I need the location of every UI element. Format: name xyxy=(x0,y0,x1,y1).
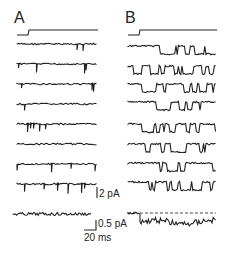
scale-label-2pa: 2 pA xyxy=(99,188,120,199)
current-trace xyxy=(128,123,216,132)
current-trace xyxy=(128,162,216,171)
current-trace xyxy=(17,63,97,73)
current-trace xyxy=(17,43,97,51)
voltage-step xyxy=(17,30,98,35)
current-trace xyxy=(17,163,97,172)
current-trace xyxy=(17,143,97,145)
current-trace xyxy=(128,101,216,110)
scale-label-05pa: 0.5 pA xyxy=(98,218,127,229)
current-trace xyxy=(17,83,97,91)
current-trace xyxy=(128,45,216,54)
panel-a-traces xyxy=(13,30,98,215)
scale-bar-05pa-20ms xyxy=(84,220,96,230)
panel-b-traces xyxy=(128,30,217,226)
scale-label-20ms: 20 ms xyxy=(84,232,111,243)
current-trace xyxy=(128,65,216,74)
current-trace xyxy=(17,183,97,193)
voltage-step xyxy=(128,30,217,35)
average-trace xyxy=(13,213,91,216)
current-trace xyxy=(128,83,216,92)
current-trace xyxy=(128,181,216,190)
current-trace xyxy=(17,123,97,132)
current-trace xyxy=(17,103,97,110)
current-trace xyxy=(128,143,216,152)
average-trace xyxy=(128,213,216,226)
baseline-dashed xyxy=(128,212,216,213)
figure-traces xyxy=(0,0,227,254)
scale-bars xyxy=(84,187,97,230)
